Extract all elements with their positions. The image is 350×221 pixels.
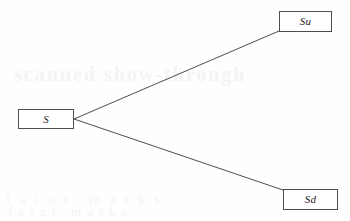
edge-down-branch	[74, 119, 283, 190]
node-s: S	[18, 109, 74, 129]
node-su: Su	[279, 11, 332, 32]
node-s-label: S	[43, 114, 49, 125]
node-sd-label: Sd	[305, 194, 316, 205]
diagram-canvas: scanned show-through faint marks faint m…	[0, 0, 350, 221]
edge-up-branch	[74, 31, 279, 119]
node-sd: Sd	[283, 189, 338, 210]
node-su-label: Su	[300, 16, 311, 27]
